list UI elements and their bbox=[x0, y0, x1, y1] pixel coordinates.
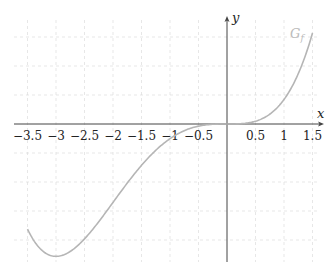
x-tick-label: 0.5 bbox=[246, 129, 265, 143]
x-tick-label: −1.5 bbox=[127, 129, 156, 143]
x-tick-label: −3.5 bbox=[13, 129, 42, 143]
y-axis-label: y bbox=[231, 10, 240, 25]
x-tick-label: −2.5 bbox=[70, 129, 99, 143]
curve-label: Gf bbox=[290, 26, 305, 43]
x-tick-label: −3 bbox=[47, 129, 65, 143]
x-tick-label: −0.5 bbox=[184, 129, 213, 143]
x-tick-label: 1.5 bbox=[303, 129, 322, 143]
x-axis-label: x bbox=[317, 106, 325, 121]
x-tick-label: 1 bbox=[280, 129, 288, 143]
x-tick-label: −2 bbox=[104, 129, 122, 143]
curve-gf bbox=[28, 33, 313, 256]
x-tick-label: −1 bbox=[161, 129, 179, 143]
function-plot: −3.5−3−2.5−2−1.5−1−0.50.511.5 x y Gf bbox=[0, 0, 328, 277]
